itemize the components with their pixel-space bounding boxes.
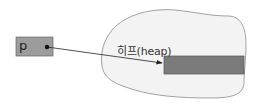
pointer-dot <box>45 45 49 49</box>
pointer-label: p <box>19 38 27 53</box>
heap-memory-block <box>164 56 244 74</box>
heap-label: 히프(heap) <box>117 42 171 58</box>
